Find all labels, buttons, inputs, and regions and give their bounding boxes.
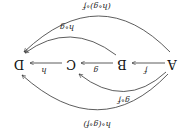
arrow-h-o-gf xyxy=(22,74,168,110)
node-b: B xyxy=(117,57,127,72)
node-a: A xyxy=(167,57,178,72)
commutative-diagram: A B C D f g h g∘f h∘g (h∘g)∘f h∘(g∘f) xyxy=(0,0,192,137)
label-f: f xyxy=(142,66,148,75)
node-d: D xyxy=(14,57,24,72)
label-h-o-g: h∘g xyxy=(60,23,74,32)
label-h-o-gf: h∘(g∘f) xyxy=(83,120,110,129)
arrow-hg-o-f xyxy=(24,16,170,52)
node-c: C xyxy=(66,57,76,72)
label-h: h xyxy=(41,66,46,75)
arrow-g-o-f xyxy=(79,72,166,92)
label-g-o-f: g∘f xyxy=(116,96,130,105)
label-hg-o-f: (h∘g)∘f xyxy=(81,2,110,11)
label-g: g xyxy=(93,66,98,75)
